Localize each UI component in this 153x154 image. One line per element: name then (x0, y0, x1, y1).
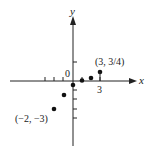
point-neg2-neg3 (52, 107, 57, 112)
annotation-upper-point: (3, 3/4) (95, 56, 124, 68)
x-axis-label: x (138, 74, 144, 86)
x-tick-label-3: 3 (97, 84, 102, 95)
point-neg1 (62, 93, 67, 98)
coordinate-plot: y x 0 3 (3, 3/4) (−2, −3) (0, 0, 153, 154)
y-axis-label: y (69, 5, 75, 17)
point-2 (89, 76, 94, 81)
point-0 (71, 83, 76, 88)
origin-label: 0 (65, 68, 70, 79)
point-1 (80, 78, 85, 83)
y-axis-arrow-icon (70, 16, 76, 25)
annotation-lower-point: (−2, −3) (15, 113, 48, 125)
x-axis-arrow-icon (129, 78, 137, 84)
y-ticks (73, 62, 77, 118)
